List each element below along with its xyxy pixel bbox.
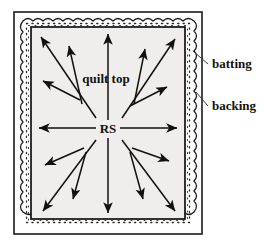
right-side-label: RS	[100, 121, 117, 136]
quilt-layers-figure: quilt top RS batting backing	[0, 0, 264, 250]
diagram-canvas: quilt top RS batting backing	[0, 0, 264, 250]
batting-label: batting	[212, 56, 252, 71]
backing-label: backing	[212, 98, 257, 113]
quilt-top-label: quilt top	[82, 71, 129, 86]
